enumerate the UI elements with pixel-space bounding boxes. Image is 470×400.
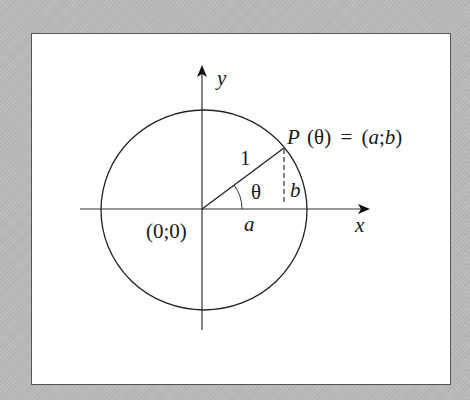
unit-circle-diagram: y x (0;0) 1 θ a b P (θ) = (a;b)	[0, 0, 470, 400]
point-arg: (θ)	[307, 125, 331, 149]
angle-label: θ	[251, 180, 261, 204]
point-name: P	[286, 125, 300, 149]
point-label: P (θ) = (a;b)	[286, 125, 402, 149]
x-axis-label: x	[354, 213, 365, 237]
point-coords-open: (	[361, 125, 368, 149]
angle-arc	[234, 185, 242, 209]
point-coord-b: b	[385, 125, 396, 149]
point-coord-a: a	[368, 125, 379, 149]
y-axis-label: y	[215, 66, 227, 90]
point-equals: =	[340, 125, 352, 149]
unit-circle	[101, 110, 307, 310]
radius-label: 1	[240, 146, 251, 170]
point-coords-close: )	[395, 125, 402, 149]
horizontal-leg-label: a	[244, 212, 255, 236]
vertical-leg-label: b	[290, 178, 301, 202]
origin-label: (0;0)	[146, 219, 187, 243]
